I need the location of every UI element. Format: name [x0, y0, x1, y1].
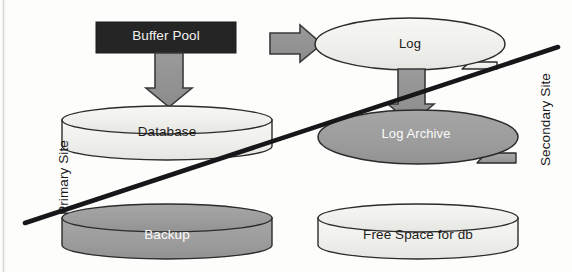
diagram-graphics — [0, 0, 572, 272]
node-log[interactable] — [315, 18, 505, 70]
arrow-buffer-pool-to-database — [146, 53, 192, 107]
arrow-buffer-pool-to-log — [270, 25, 322, 62]
node-buffer-pool[interactable] — [96, 22, 236, 53]
diagram-canvas: Buffer Pool Log Database Log Archive Bac… — [0, 0, 572, 272]
node-free-space[interactable] — [318, 204, 518, 259]
node-backup[interactable] — [62, 204, 272, 259]
